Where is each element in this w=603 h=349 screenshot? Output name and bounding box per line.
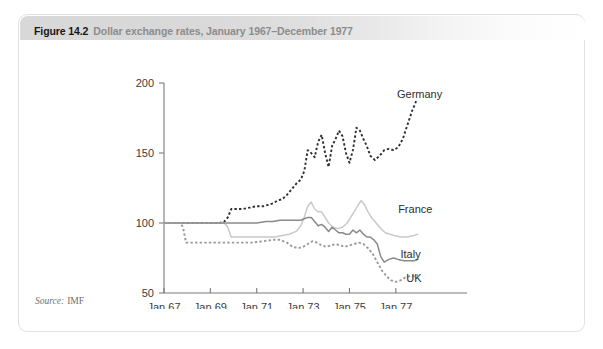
x-tick-label: Jan 71 xyxy=(240,301,273,309)
x-tick-label: Jan 75 xyxy=(333,301,366,309)
x-tick-label: Jan 69 xyxy=(194,301,227,309)
x-tick-label: Jan 73 xyxy=(287,301,320,309)
x-tick-label: Jan 67 xyxy=(147,301,180,309)
figure-number: Figure 14.2 xyxy=(34,25,88,37)
figure-title: Figure 14.2Dollar exchange rates, Januar… xyxy=(34,21,353,39)
series-line-germany xyxy=(164,100,417,223)
chart-series-group xyxy=(164,100,418,282)
series-labels-group: GermanyFranceItalyUK xyxy=(397,88,443,283)
figure-header-bar: Figure 14.2Dollar exchange rates, Januar… xyxy=(20,16,585,40)
y-axis-tick-labels: 50100150200 xyxy=(136,77,154,299)
figure-card: Figure 14.2Dollar exchange rates, Januar… xyxy=(18,14,585,332)
x-tick-label: Jan 77 xyxy=(379,301,412,309)
x-axis-tick-labels: Jan 67Jan 69Jan 71Jan 73Jan 75Jan 77 xyxy=(147,301,412,309)
chart-plot-area: 50100150200 Jan 67Jan 69Jan 71Jan 73Jan … xyxy=(19,39,584,309)
source-value: IMF xyxy=(67,296,84,306)
series-label-france: France xyxy=(398,203,432,215)
y-tick-label: 150 xyxy=(136,147,154,159)
exchange-rate-line-chart: 50100150200 Jan 67Jan 69Jan 71Jan 73Jan … xyxy=(19,39,584,309)
series-line-france xyxy=(164,201,418,237)
series-label-uk: UK xyxy=(406,272,422,284)
series-label-germany: Germany xyxy=(397,88,443,100)
source-label: Source: xyxy=(35,296,64,306)
y-tick-label: 100 xyxy=(136,217,154,229)
series-label-italy: Italy xyxy=(400,248,421,260)
chart-axes xyxy=(159,83,467,293)
source-note: Source:IMF xyxy=(35,296,84,306)
y-tick-label: 50 xyxy=(142,287,154,299)
figure-caption: Dollar exchange rates, January 1967–Dece… xyxy=(93,25,353,37)
y-tick-label: 200 xyxy=(136,77,154,89)
series-line-italy xyxy=(164,217,418,262)
